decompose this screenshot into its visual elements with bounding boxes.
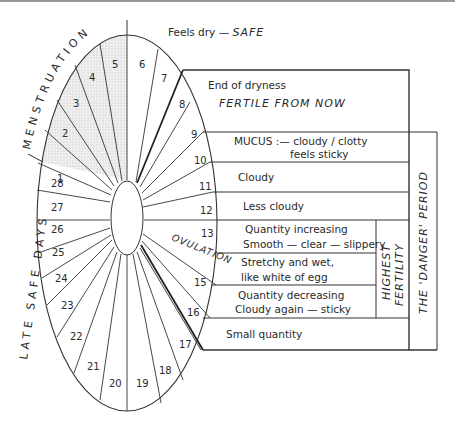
svg-text:21: 21 [87,361,100,372]
svg-text:6: 6 [139,59,145,70]
late-safe-days-label: LATE SAFE DAYS [17,214,50,361]
svg-text:7: 7 [161,73,167,84]
highest-fertility-label-1: HIGHEST [380,244,393,300]
small-quantity-row: Small quantity [226,328,302,340]
svg-text:13: 13 [201,228,214,239]
quantity-decreasing-line2: Cloudy again — sticky [235,303,351,315]
svg-text:3: 3 [73,98,79,109]
stretchy-line2: like white of egg [241,271,328,283]
svg-text:4: 4 [89,72,95,83]
quantity-increasing-line2: Smooth — clear — slippery [243,238,385,250]
svg-text:16: 16 [187,307,200,318]
svg-text:9: 9 [191,129,197,140]
fertile-end-spoke [141,245,203,350]
svg-text:8: 8 [179,99,185,110]
svg-text:5: 5 [112,59,118,70]
mucus-row-line1: MUCUS :— cloudy / clotty [234,135,368,147]
svg-text:23: 23 [61,300,74,311]
svg-text:25: 25 [52,247,65,258]
cloudy-row: Cloudy [238,171,274,183]
svg-text:11: 11 [199,181,212,192]
menstruation-divider-line [28,154,43,162]
highest-fertility-label-2: FERTILITY [393,243,406,306]
svg-text:26: 26 [51,224,64,235]
svg-text:10: 10 [194,155,207,166]
stretchy-line1: Stretchy and wet, [241,256,334,268]
svg-text:27: 27 [51,202,64,213]
cycle-inner-ellipse [111,181,143,255]
quantity-decreasing-line1: Quantity decreasing [238,289,344,301]
svg-text:2: 2 [62,128,68,139]
end-of-dryness-text: End of dryness [208,79,286,91]
fertility-cycle-diagram: 1 2 3 4 5 6 7 8 9 10 11 12 13 15 16 17 1… [0,0,455,426]
svg-text:19: 19 [136,378,149,389]
fertile-from-now-text: FERTILE FROM NOW [219,97,346,110]
danger-period-label: THE 'DANGER' PERIOD [417,171,430,314]
svg-text:24: 24 [55,273,68,284]
quantity-increasing-line1: Quantity increasing [245,223,348,235]
svg-text:15: 15 [194,277,207,288]
mucus-row-line2: feels sticky [290,148,349,160]
svg-text:12: 12 [200,205,213,216]
svg-text:20: 20 [109,378,122,389]
svg-text:17: 17 [179,339,192,350]
svg-text:18: 18 [159,365,172,376]
svg-text:22: 22 [70,331,83,342]
feels-dry-text: Feels dry — SAFE [168,26,264,39]
svg-text:28: 28 [51,178,64,189]
less-cloudy-row: Less cloudy [243,200,304,212]
